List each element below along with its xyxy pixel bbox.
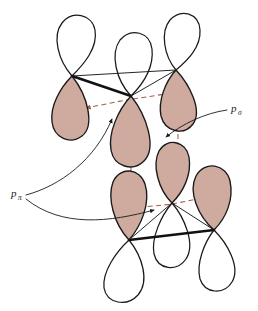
- orbital-upper-right-filled-lobe: [160, 70, 196, 131]
- orbital-upper-right-empty-lobe: [164, 13, 200, 70]
- p-sigma-symbol: p: [230, 102, 237, 114]
- orbital-lower-left-empty-lobe: [104, 240, 144, 302]
- orbital-upper-left-empty-lobe: [57, 15, 95, 76]
- lower-cluster: [104, 142, 235, 302]
- orbital-lower-right: [193, 166, 235, 291]
- orbital-upper-center: [110, 33, 152, 167]
- orbital-lower-center-filled-lobe: [156, 142, 190, 203]
- label-p-pi: p π: [10, 187, 22, 202]
- orbital-upper-left-filled-lobe: [52, 76, 89, 140]
- orbital-upper-center-filled-lobe: [110, 96, 150, 167]
- p-pi-subscript: π: [18, 193, 22, 202]
- p-orbital-figure: p σ p π: [0, 0, 258, 311]
- p-pi-symbol: p: [10, 187, 17, 199]
- orbital-upper-right: [160, 13, 200, 131]
- bond-lower-left-to-right: [129, 230, 214, 240]
- bond-upper-left-to-right: [72, 70, 176, 76]
- figure-canvas: p σ p π: [0, 0, 258, 311]
- p-sigma-subscript: σ: [238, 108, 242, 117]
- label-p-sigma: p σ: [230, 102, 242, 117]
- orbital-lower-right-empty-lobe: [199, 230, 235, 291]
- orbital-lower-left: [104, 171, 147, 302]
